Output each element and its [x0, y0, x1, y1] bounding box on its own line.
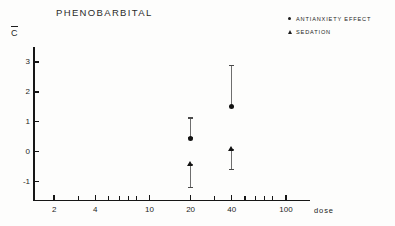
chart-figure: PHENOBARBITAL ANTIANXIETY EFFECT SEDATIO…	[0, 0, 395, 226]
x-axis-minor-tick	[272, 196, 273, 199]
y-axis-tick-label-text: 3	[12, 57, 30, 66]
y-axis-tick	[35, 151, 39, 152]
data-point-antianxiety-effect	[229, 104, 234, 109]
x-axis-minor-tick	[128, 196, 129, 199]
x-axis-minor-tick	[244, 196, 245, 199]
data-point-sedation	[187, 161, 193, 166]
y-axis-tick	[35, 181, 39, 182]
error-bar-cap	[188, 117, 193, 118]
legend-item-antianxiety-effect: ANTIANXIETY EFFECT	[288, 12, 393, 25]
y-axis-line	[33, 47, 35, 201]
error-bar	[231, 65, 232, 107]
y-axis-tick-label: 0	[10, 147, 30, 157]
data-point-antianxiety-effect	[188, 136, 193, 141]
y-axis-tick	[35, 91, 39, 92]
x-axis-tick	[285, 195, 286, 200]
x-axis-tick-label: 10	[145, 205, 154, 214]
error-bar-cap	[188, 187, 193, 188]
x-axis-tick-label: 4	[93, 205, 97, 214]
chart-title: PHENOBARBITAL	[56, 7, 153, 18]
error-bar-cap	[229, 169, 234, 170]
x-axis-tick	[190, 195, 191, 200]
triangle-marker-icon	[288, 30, 296, 34]
error-bar	[190, 164, 191, 188]
y-axis-tick-label: 1	[10, 117, 30, 127]
x-axis-minor-tick	[255, 196, 256, 199]
x-axis-tick	[231, 195, 232, 200]
legend-label: ANTIANXIETY EFFECT	[296, 16, 371, 22]
error-bar	[231, 149, 232, 170]
x-axis-minor-tick	[108, 196, 109, 199]
chart-legend: ANTIANXIETY EFFECT SEDATION	[288, 12, 393, 38]
legend-item-sedation: SEDATION	[288, 25, 393, 38]
x-axis-minor-tick	[264, 196, 265, 199]
y-axis-label-text: C	[11, 28, 18, 38]
y-axis-tick-label-text: 2	[12, 87, 30, 96]
circle-marker-icon	[288, 17, 296, 20]
x-axis-tick	[95, 195, 96, 200]
y-axis-tick-label-text: 1	[12, 117, 30, 126]
x-axis-tick-label: 40	[227, 205, 236, 214]
data-point-sedation	[228, 146, 234, 151]
x-axis-tick	[53, 195, 54, 200]
y-axis-label: C	[11, 26, 18, 38]
y-axis-tick	[35, 121, 39, 122]
x-axis-minor-tick	[119, 196, 120, 199]
x-axis-minor-tick	[136, 196, 137, 199]
x-axis-tick-label: 20	[186, 205, 195, 214]
x-axis-label: dose	[314, 206, 334, 215]
y-axis-tick	[35, 61, 39, 62]
y-axis-tick-label: 3	[10, 57, 30, 67]
y-axis-tick-label-text: 0	[12, 147, 30, 156]
error-bar-cap	[229, 65, 234, 66]
y-axis-tick-label: -1	[10, 177, 30, 187]
x-axis-tick-label: 100	[279, 205, 292, 214]
y-axis-tick-label: 2	[10, 87, 30, 97]
x-axis-line	[33, 200, 310, 202]
x-axis-minor-tick	[78, 196, 79, 199]
x-axis-minor-tick	[214, 196, 215, 199]
x-axis-tick	[149, 195, 150, 200]
legend-label: SEDATION	[296, 29, 331, 35]
x-axis-tick-label: 2	[52, 205, 56, 214]
y-axis-tick-label-text: -1	[12, 177, 30, 186]
